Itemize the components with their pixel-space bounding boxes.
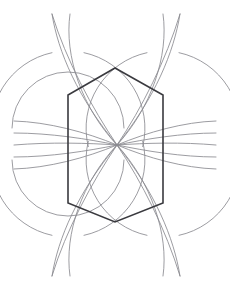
- geometric-figure-canvas: [0, 0, 230, 290]
- geometry-diagram: [0, 0, 230, 290]
